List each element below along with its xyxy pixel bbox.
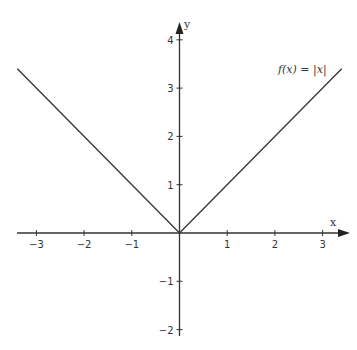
chart: −3−2−1123−2−11234 x y f(x) = |x| [0, 0, 357, 350]
x-tick-label: −1 [124, 239, 139, 250]
x-axis-label: x [330, 216, 337, 229]
x-axis-arrow [338, 229, 350, 237]
x-tick-label: 2 [272, 239, 278, 250]
x-tick-label: −2 [77, 239, 92, 250]
y-tick-label: −1 [159, 276, 174, 287]
y-tick-label: −2 [159, 325, 174, 336]
y-tick-label: 1 [167, 180, 173, 191]
function-label: f(x) = |x| [277, 63, 327, 77]
x-tick-label: 1 [224, 239, 230, 250]
y-axis-arrow [176, 22, 184, 34]
y-tick-label: 3 [167, 83, 173, 94]
x-tick-label: −3 [29, 239, 44, 250]
x-tick-label: 3 [319, 239, 325, 250]
y-tick-label: 4 [167, 35, 173, 46]
y-tick-label: 2 [167, 131, 173, 142]
y-axis-label: y [183, 18, 191, 31]
